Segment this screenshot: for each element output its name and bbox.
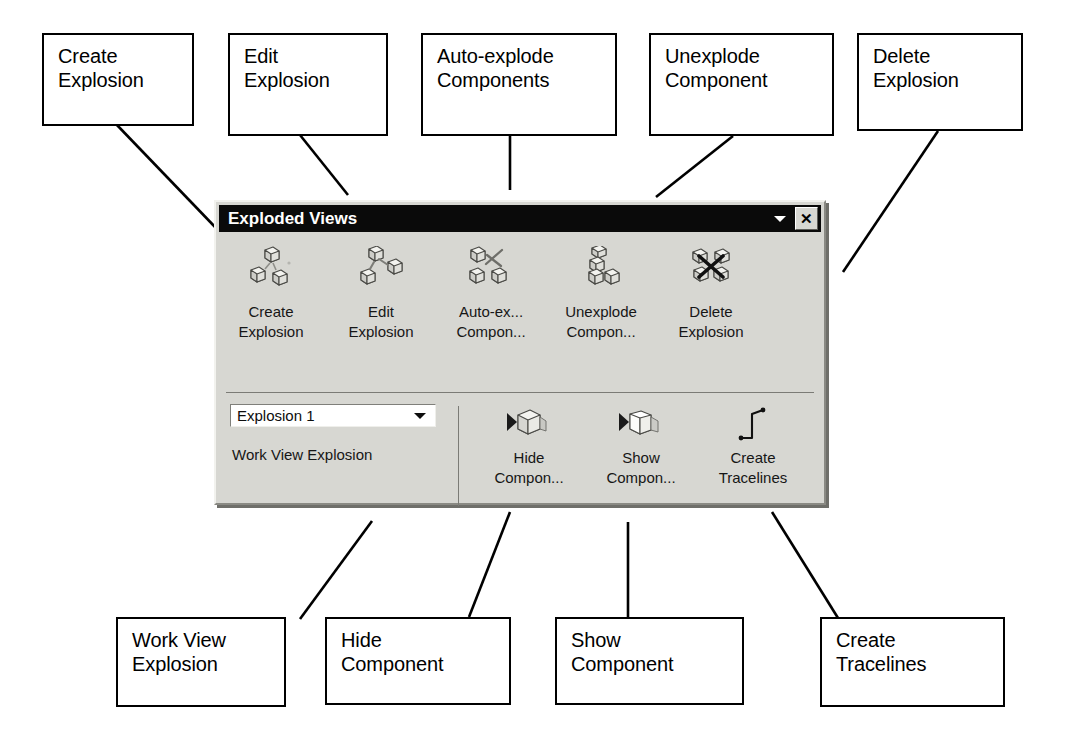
work-view-explosion-label: Work View Explosion xyxy=(230,446,458,463)
leader-create-explosion xyxy=(116,124,216,228)
unexplode-component-button[interactable]: Unexplode Compon... xyxy=(546,242,656,342)
delete-explosion-icon xyxy=(685,242,737,298)
create-tracelines-button[interactable]: Create Tracelines xyxy=(697,404,809,488)
hide-component-icon xyxy=(504,404,554,446)
callout-show-component: Show Component xyxy=(555,617,744,705)
leader-delete-explosion xyxy=(843,131,938,272)
hide-component-label: Hide Compon... xyxy=(494,448,563,488)
titlebar[interactable]: Exploded Views ✕ xyxy=(219,205,821,232)
edit-explosion-icon xyxy=(355,242,407,298)
callout-edit-explosion: Edit Explosion xyxy=(228,33,388,136)
callout-create-tracelines: Create Tracelines xyxy=(820,617,1005,707)
unexplode-component-icon xyxy=(575,242,627,298)
delete-explosion-label: Delete Explosion xyxy=(678,302,743,342)
leader-edit-explosion xyxy=(300,135,348,195)
exploded-views-toolbar: Exploded Views ✕ xyxy=(214,200,826,505)
auto-explode-components-button[interactable]: Auto-ex... Compon... xyxy=(436,242,546,342)
create-explosion-label: Create Explosion xyxy=(238,302,303,342)
callout-unexplode-component: Unexplode Component xyxy=(649,33,834,136)
callout-delete-explosion: Delete Explosion xyxy=(857,33,1023,131)
auto-explode-components-label: Auto-ex... Compon... xyxy=(456,302,525,342)
auto-explode-icon xyxy=(465,242,517,298)
callout-auto-explode-components: Auto-explode Components xyxy=(421,33,617,136)
hide-component-button[interactable]: Hide Compon... xyxy=(473,404,585,488)
create-tracelines-icon xyxy=(732,404,774,446)
leader-hide-component xyxy=(469,512,510,617)
show-component-label: Show Compon... xyxy=(606,448,675,488)
show-component-icon xyxy=(616,404,666,446)
delete-explosion-button[interactable]: Delete Explosion xyxy=(656,242,766,342)
explosion-select-value: Explosion 1 xyxy=(231,407,315,424)
chevron-down-icon[interactable] xyxy=(414,413,426,419)
component-visibility-group: Hide Compon... xyxy=(459,404,824,488)
unexplode-component-label: Unexplode Compon... xyxy=(565,302,637,342)
titlebar-title: Exploded Views xyxy=(219,209,357,229)
create-explosion-button[interactable]: Create Explosion xyxy=(216,242,326,342)
callout-work-view-explosion: Work View Explosion xyxy=(116,617,286,707)
edit-explosion-label: Edit Explosion xyxy=(348,302,413,342)
chevron-down-icon[interactable] xyxy=(774,216,786,222)
primary-command-row: Create Explosion xyxy=(216,232,824,392)
create-explosion-icon xyxy=(245,242,297,298)
secondary-command-row: Explosion 1 Work View Explosion xyxy=(216,393,824,512)
leader-create-tracelines xyxy=(772,512,838,618)
explosion-selector-group: Explosion 1 Work View Explosion xyxy=(216,404,458,463)
callout-hide-component: Hide Component xyxy=(325,617,511,705)
explosion-select[interactable]: Explosion 1 xyxy=(230,404,436,427)
leader-unexplode-component xyxy=(656,136,733,197)
create-tracelines-label: Create Tracelines xyxy=(719,448,788,488)
edit-explosion-button[interactable]: Edit Explosion xyxy=(326,242,436,342)
close-button[interactable]: ✕ xyxy=(795,207,818,230)
show-component-button[interactable]: Show Compon... xyxy=(585,404,697,488)
leader-work-view-explosion xyxy=(300,521,372,619)
annotated-screenshot: Create Explosion Edit Explosion Auto-exp… xyxy=(0,0,1066,751)
callout-create-explosion: Create Explosion xyxy=(42,33,194,126)
